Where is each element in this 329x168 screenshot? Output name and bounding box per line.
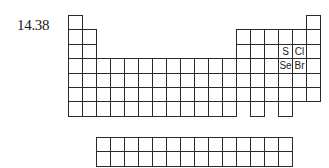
f-block-cell <box>166 137 181 152</box>
element-cell <box>222 87 237 102</box>
element-cell <box>264 29 279 44</box>
f-block-cell <box>264 151 279 166</box>
element-cell <box>68 29 83 44</box>
element-cell <box>180 87 195 102</box>
element-cell <box>292 87 307 102</box>
f-block-cell <box>180 151 195 166</box>
element-cell <box>82 44 97 59</box>
element-cell <box>110 87 125 102</box>
element-cell <box>138 58 153 73</box>
element-cell <box>208 101 223 116</box>
element-cell <box>306 44 321 59</box>
f-block-cell <box>278 137 293 152</box>
element-cell <box>82 87 97 102</box>
element-cell <box>166 58 181 73</box>
element-cell <box>124 101 139 116</box>
element-cell <box>124 73 139 88</box>
element-cell <box>194 101 209 116</box>
element-cell <box>82 29 97 44</box>
element-cell <box>292 29 307 44</box>
element-cell <box>124 87 139 102</box>
f-block-cell <box>250 151 265 166</box>
element-cell-br: Br <box>292 58 307 73</box>
f-block-cell <box>264 137 279 152</box>
element-cell <box>208 58 223 73</box>
element-cell <box>250 44 265 59</box>
f-block-cell <box>250 137 265 152</box>
element-cell <box>180 101 195 116</box>
element-cell <box>68 87 83 102</box>
element-cell <box>110 58 125 73</box>
f-block-cell <box>124 137 139 152</box>
element-cell <box>264 73 279 88</box>
element-cell <box>264 58 279 73</box>
f-block-cell <box>96 151 111 166</box>
element-cell <box>222 101 237 116</box>
element-cell <box>96 87 111 102</box>
element-cell <box>166 73 181 88</box>
element-cell <box>180 58 195 73</box>
f-block-cell <box>124 151 139 166</box>
element-cell <box>152 73 167 88</box>
element-cell <box>166 101 181 116</box>
element-cell-se: Se <box>278 58 293 73</box>
element-cell <box>152 58 167 73</box>
element-cell <box>278 101 293 116</box>
element-cell <box>110 73 125 88</box>
element-cell <box>96 58 111 73</box>
f-block-cell <box>208 137 223 152</box>
f-block-cell <box>194 151 209 166</box>
element-cell <box>222 58 237 73</box>
element-cell <box>180 73 195 88</box>
element-cell <box>68 15 83 30</box>
element-cell <box>278 73 293 88</box>
element-cell <box>264 44 279 59</box>
f-block-cell <box>152 137 167 152</box>
element-cell <box>250 73 265 88</box>
f-block-cell <box>236 151 251 166</box>
element-cell <box>236 73 251 88</box>
element-cell <box>124 58 139 73</box>
element-cell <box>292 73 307 88</box>
element-cell <box>306 15 321 30</box>
element-cell <box>68 58 83 73</box>
element-cell <box>96 73 111 88</box>
element-cell <box>306 87 321 102</box>
element-cell <box>110 101 125 116</box>
f-block-cell <box>166 151 181 166</box>
element-cell <box>250 101 265 116</box>
element-cell <box>306 29 321 44</box>
element-cell <box>278 87 293 102</box>
element-cell <box>250 29 265 44</box>
element-cell <box>236 29 251 44</box>
f-block-cell <box>180 137 195 152</box>
f-block-cell <box>236 137 251 152</box>
f-block-cell <box>152 151 167 166</box>
element-cell <box>138 73 153 88</box>
element-cell-s: S <box>278 44 293 59</box>
f-block-cell <box>194 137 209 152</box>
element-cell <box>236 44 251 59</box>
element-cell-cl: Cl <box>292 44 307 59</box>
periodic-table-outline: SClSeBr <box>0 0 329 168</box>
element-cell <box>194 87 209 102</box>
element-cell <box>306 73 321 88</box>
element-cell <box>208 87 223 102</box>
f-block-cell <box>138 137 153 152</box>
element-cell <box>138 87 153 102</box>
element-cell <box>194 73 209 88</box>
element-cell <box>152 87 167 102</box>
f-block-cell <box>222 151 237 166</box>
f-block-cell <box>208 151 223 166</box>
element-cell <box>96 101 111 116</box>
element-cell <box>82 73 97 88</box>
element-cell <box>264 87 279 102</box>
f-block-cell <box>96 137 111 152</box>
f-block-cell <box>278 151 293 166</box>
element-cell <box>194 58 209 73</box>
element-cell <box>236 58 251 73</box>
element-cell <box>82 58 97 73</box>
f-block-cell <box>222 137 237 152</box>
element-cell <box>306 58 321 73</box>
element-cell <box>138 101 153 116</box>
